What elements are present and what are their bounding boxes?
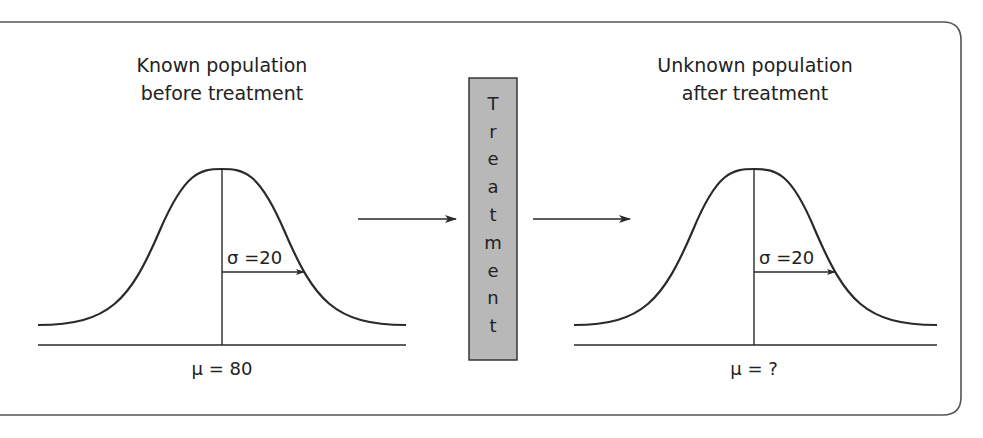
left-panel-title-line1: Known population	[137, 54, 308, 76]
treatment-letter: m	[484, 232, 502, 253]
treatment-letter: t	[489, 204, 496, 225]
right-sigma-label: σ =20	[759, 247, 814, 268]
right-panel: Unknown population after treatment σ =20…	[574, 54, 937, 379]
treatment-letter: a	[487, 176, 498, 197]
left-panel-title-line2: before treatment	[141, 82, 304, 104]
left-sigma-label: σ =20	[227, 247, 282, 268]
left-mu-label: μ = 80	[192, 358, 253, 379]
treatment-letter: T	[487, 93, 500, 114]
treatment-box: T r e a t m e n t	[469, 78, 517, 360]
treatment-letter: e	[487, 148, 498, 169]
right-panel-title-line1: Unknown population	[657, 54, 852, 76]
treatment-letter: r	[489, 121, 497, 142]
left-panel: Known population before treatment σ =20 …	[38, 54, 406, 379]
treatment-letter: n	[487, 287, 498, 308]
treatment-letter: t	[489, 315, 496, 336]
treatment-letter: e	[487, 260, 498, 281]
right-mu-label: μ = ?	[730, 358, 778, 379]
right-panel-title-line2: after treatment	[682, 82, 828, 104]
diagram-canvas: Known population before treatment σ =20 …	[0, 0, 983, 438]
right-normal-curve	[574, 169, 937, 325]
